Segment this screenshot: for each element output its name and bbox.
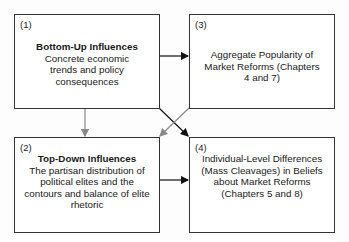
box-description: The partisan distribution of political e… [19,165,155,211]
box-number: (4) [195,142,207,153]
box-title: Bottom-Up Influences [19,41,155,53]
box-description: Concrete economic trends and policy cons… [19,53,155,88]
arrow-3-to-2 [160,108,189,136]
box-title: Top-Down Influences [19,153,155,165]
box-bottom-up-influences: (1) Bottom-Up Influences Concrete econom… [14,14,160,109]
box-individual-level-differences: (4) Individual-Level Differences (Mass C… [189,137,335,233]
box-number: (2) [20,142,32,153]
arrow-1-to-4 [159,108,188,136]
box-top-down-influences: (2) Top-Down Influences The partisan dis… [14,137,160,233]
box-aggregate-popularity: (3) Aggregate Popularity of Market Refor… [189,14,335,109]
box-number: (1) [20,19,32,30]
box-description: Individual-Level Differences (Mass Cleav… [194,153,330,199]
box-description: Aggregate Popularity of Market Reforms (… [194,49,330,84]
box-number: (3) [195,19,207,30]
